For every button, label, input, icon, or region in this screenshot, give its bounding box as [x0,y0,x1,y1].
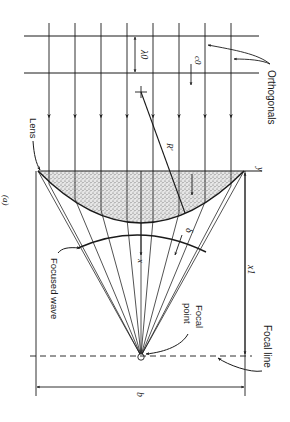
focal-distance-label: x1 [246,264,257,274]
delta-label: δ [184,228,195,233]
width-label: b [135,392,146,397]
orthogonals-callout [208,45,270,64]
wave-focusing-lens-diagram: λ0 c0 Orthogonals R' [0,0,290,422]
focused-wave-label: Focused wave [49,258,60,319]
focal-point-callout-arrow [146,334,188,354]
focused-wave-arc [78,235,206,252]
focal-line-label: Focal line [262,325,273,368]
focal-point-label-line2: point [182,303,193,324]
x-axis-label: x [136,258,146,263]
wavelength-dimension: λ0 [135,37,150,72]
wavelength-label: λ0 [139,49,150,59]
focal-point-label-line1: Focal [194,305,205,328]
delta-arrow [175,235,182,255]
y-axis-label: y [255,166,266,172]
incoming-orthogonals [49,23,231,171]
panel-label: (a) [1,195,11,206]
orthogonals-label: Orthogonals [266,70,277,124]
celerity-indicator: c0 [191,56,203,85]
focal-point-marker [138,354,144,360]
lens-callout-arrow [33,141,40,170]
celerity-label: c0 [193,56,203,65]
focused-wave-callout-arrow [58,248,80,253]
lens-label: Lens [28,118,39,139]
focal-line-callout-arrow [218,358,262,371]
radius-label: R' [165,142,175,151]
